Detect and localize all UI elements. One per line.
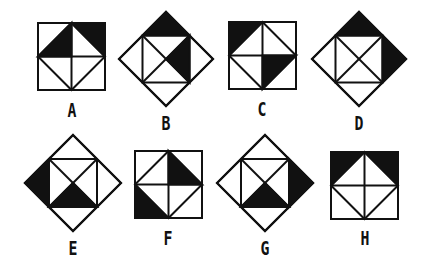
figure-h-label: H [357, 228, 373, 248]
puzzle-figure-grid: A B C D E F G H [0, 0, 425, 275]
